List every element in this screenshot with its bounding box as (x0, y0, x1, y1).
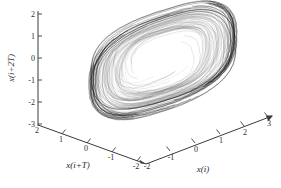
z-tick-label: 0 (31, 54, 35, 63)
y-tick-mark (112, 148, 116, 153)
attractor-trajectory (89, 1, 238, 120)
y-axis: 210-1-2 x(i+T) (35, 125, 146, 171)
x-tick-label: 1 (219, 136, 223, 145)
y-tick-label: 1 (59, 135, 63, 144)
x-tick-label: -1 (168, 153, 175, 162)
y-tick-mark (62, 130, 66, 135)
x-tick-label: 3 (267, 119, 271, 128)
x-axis-line (146, 116, 272, 164)
y-tick-label: -1 (108, 153, 115, 162)
z-axis: 210-1-2-3 x(i+2T) (6, 10, 42, 129)
x-axis-label: x(i) (196, 164, 210, 174)
x-axis: -2-10123 x(i) (144, 113, 273, 175)
phase-space-plot: 210-1-2-3 x(i+2T) 210-1-2 x(i+T) -2-1012… (0, 0, 281, 188)
z-tick-label: 1 (31, 32, 35, 41)
y-tick-label: 2 (35, 126, 39, 135)
x-tick-mark (217, 130, 221, 135)
z-axis-ticks: 210-1-2-3 (28, 10, 42, 129)
x-tick-mark (241, 122, 245, 127)
y-tick-label: -2 (133, 162, 140, 171)
x-tick-label: -2 (144, 162, 151, 171)
trajectory-loop (117, 27, 208, 96)
y-tick-label: 0 (84, 144, 88, 153)
z-tick-label: 2 (31, 10, 35, 19)
x-tick-label: 2 (243, 128, 247, 137)
y-tick-mark (87, 139, 91, 144)
z-tick-label: -2 (28, 98, 35, 107)
x-tick-mark (167, 147, 171, 152)
y-axis-line (38, 125, 146, 164)
x-tick-label: 0 (194, 145, 198, 154)
z-tick-label: -1 (28, 76, 35, 85)
y-axis-label: x(i+T) (65, 160, 90, 170)
x-tick-mark (192, 139, 196, 144)
phase-space-figure: 210-1-2-3 x(i+2T) 210-1-2 x(i+T) -2-1012… (0, 0, 281, 188)
z-tick-label: -3 (28, 120, 35, 129)
z-axis-label: x(i+2T) (6, 54, 16, 83)
trajectory-inner-strand (125, 49, 187, 86)
x-axis-ticks: -2-10123 (144, 113, 271, 172)
